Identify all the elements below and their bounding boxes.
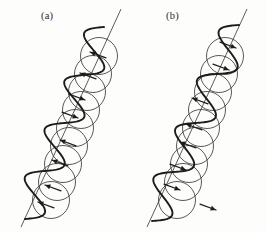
rolling-circle <box>177 128 214 165</box>
direction-arrow <box>220 42 236 48</box>
panel-b-graphic <box>147 9 247 227</box>
direction-arrow <box>200 204 216 210</box>
direction-arrow <box>38 202 54 208</box>
direction-arrow <box>69 94 85 100</box>
cycloid-circles-diagram <box>0 0 267 233</box>
figure-container: (a) (b) <box>0 0 267 233</box>
panel-a-label: (a) <box>41 10 53 21</box>
rolling-circle <box>69 74 106 111</box>
panel-a-graphic <box>21 9 121 227</box>
direction-arrow <box>45 185 61 191</box>
rolling-circle <box>195 74 232 111</box>
rolling-circle <box>183 110 220 147</box>
panel-b-label: (b) <box>166 10 179 21</box>
rolling-circle <box>51 128 88 165</box>
